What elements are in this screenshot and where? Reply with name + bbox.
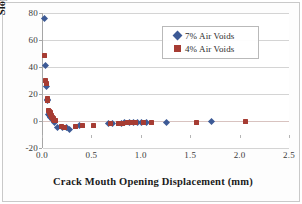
data-point — [120, 121, 125, 126]
data-point — [42, 53, 47, 58]
square-marker-icon — [174, 45, 181, 52]
diamond-marker-icon — [173, 31, 183, 41]
legend-item-7-percent: 7% Air Voids — [166, 29, 255, 42]
x-tick-mark — [190, 135, 191, 138]
x-tick-mark — [141, 135, 142, 138]
y-tick-mark — [39, 40, 42, 41]
data-point — [62, 125, 67, 130]
data-point — [91, 123, 96, 128]
y-tick-mark — [39, 148, 42, 149]
gridline — [43, 67, 289, 68]
x-tick-label: 1.0 — [126, 151, 156, 160]
y-tick-label: 60 — [2, 36, 38, 45]
y-tick-label: 0 — [2, 117, 38, 126]
legend-item-4-percent: 4% Air Voids — [166, 42, 255, 55]
x-tick-label: 0.5 — [76, 151, 106, 160]
legend-item-label: 4% Air Voids — [185, 44, 234, 54]
data-point — [80, 123, 85, 128]
data-point — [133, 120, 138, 125]
data-point — [73, 124, 78, 129]
x-tick-mark — [42, 135, 43, 138]
legend-item-label: 7% Air Voids — [185, 31, 234, 41]
y-tick-mark — [39, 94, 42, 95]
data-point — [163, 119, 170, 126]
gridline — [43, 148, 289, 149]
y-tick-mark — [39, 13, 42, 14]
data-point — [194, 120, 199, 125]
x-tick-label: 2.5 — [274, 151, 302, 160]
x-axis-title: Crack Mouth Opening Displacement (mm) — [18, 176, 288, 187]
y-tick-label: 20 — [2, 90, 38, 99]
gridline — [43, 94, 289, 95]
data-point — [45, 98, 50, 103]
chart-figure: Slope (ΔkN/Δmm) -20020406080 0.00.51.01.… — [0, 0, 302, 204]
data-point — [141, 120, 146, 125]
data-point — [243, 119, 248, 124]
x-tick-label: 1.5 — [175, 151, 205, 160]
chart-legend: 7% Air Voids 4% Air Voids — [162, 26, 259, 59]
data-point — [44, 81, 49, 86]
data-point — [53, 118, 58, 123]
y-tick-mark — [39, 121, 42, 122]
data-point — [108, 121, 113, 126]
x-tick-label: 2.0 — [225, 151, 255, 160]
y-tick-mark — [39, 67, 42, 68]
y-tick-label: 40 — [2, 63, 38, 72]
x-tick-mark — [91, 135, 92, 138]
gridline — [43, 13, 289, 14]
data-point — [40, 15, 47, 22]
x-tick-mark — [240, 135, 241, 138]
data-point — [207, 118, 214, 125]
data-point — [149, 120, 154, 125]
y-tick-label: 80 — [2, 9, 38, 18]
x-tick-label: 0.0 — [27, 151, 57, 160]
x-tick-mark — [289, 135, 290, 138]
